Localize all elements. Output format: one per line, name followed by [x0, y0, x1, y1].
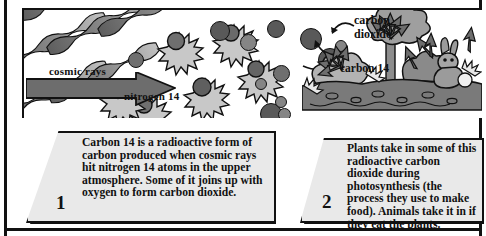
illustration-panel: cosmic rays nitrogen 14 carbon dioxide c… [22, 10, 482, 118]
label-nitrogen-14: nitrogen 14 [124, 90, 179, 102]
caption-box-1: 1 Carbon 14 is a radioactive form of car… [26, 131, 272, 219]
label-carbon-dioxide-line2: dioxide [354, 28, 391, 40]
label-cosmic-rays: cosmic rays [49, 65, 106, 77]
caption-text-1: Carbon 14 is a radioactive form of carbo… [82, 137, 272, 200]
caption-number-2: 2 [322, 191, 332, 213]
ecosystem-scene [302, 10, 482, 118]
caption-text-2: Plants take in some of this radioactive … [347, 143, 477, 231]
label-carbon-dioxide: carbon dioxide [354, 14, 391, 40]
figure-root: cosmic rays nitrogen 14 carbon dioxide c… [0, 0, 486, 236]
caption-number-1: 1 [56, 192, 66, 214]
caption-box-2: 2 Plants take in some of this radioactiv… [300, 138, 480, 219]
label-carbon-dioxide-line1: carbon [354, 14, 391, 26]
label-carbon-14: carbon 14 [340, 62, 389, 74]
frame-left-rule [4, 0, 7, 236]
